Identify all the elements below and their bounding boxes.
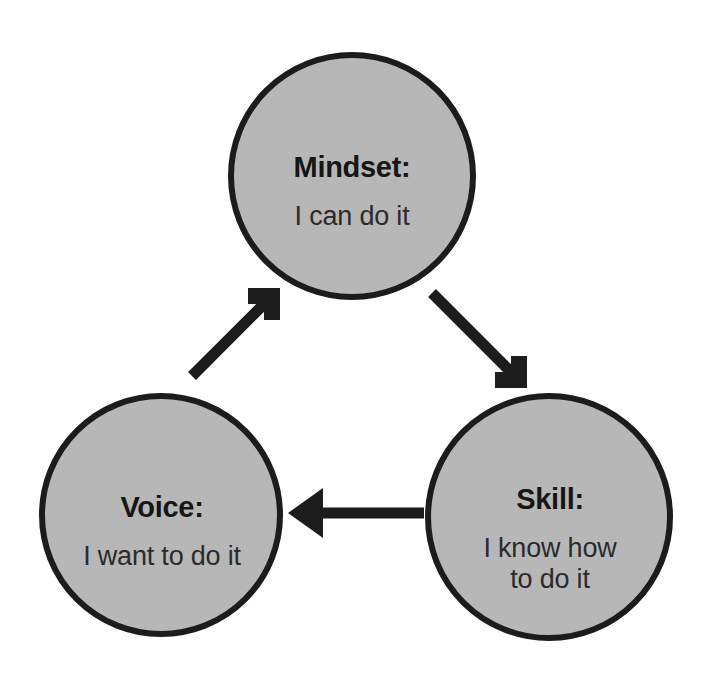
arrow-mindset-to-skill — [432, 293, 527, 388]
arrow-voice-to-mindset — [192, 288, 280, 376]
diagram-canvas: Mindset: I can do it Voice: I want to do… — [0, 0, 707, 682]
node-circle-skill[interactable] — [428, 396, 670, 638]
node-circle-voice[interactable] — [42, 396, 280, 634]
node-circle-mindset[interactable] — [231, 55, 473, 297]
arrow-skill-to-voice — [288, 488, 424, 538]
cycle-diagram-graphic — [0, 0, 707, 682]
